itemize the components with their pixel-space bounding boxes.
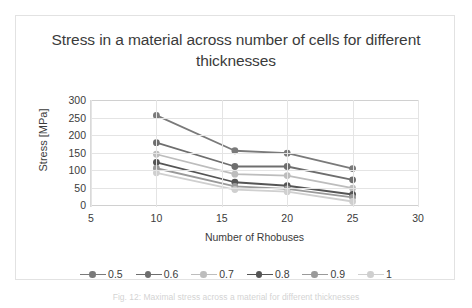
x-axis-tick-label: 30 — [412, 212, 424, 224]
legend-label: 1 — [386, 268, 392, 280]
legend-label: 0.8 — [275, 268, 290, 280]
gridline-vertical — [353, 100, 354, 207]
legend-item[interactable]: 0.5 — [80, 268, 123, 280]
figure-caption: Fig. 12: Maximal stress across a materia… — [0, 292, 472, 302]
chart-title: Stress in a material across number of ce… — [44, 29, 428, 71]
legend-marker-icon — [136, 270, 162, 279]
x-axis-title: Number of Rhobuses — [90, 231, 419, 243]
gridline-horizontal — [91, 135, 418, 136]
legend-item[interactable]: 0.8 — [247, 268, 290, 280]
y-axis-tick-label: 50 — [74, 182, 86, 194]
y-axis-tick-label: 100 — [68, 164, 86, 176]
gridline-vertical — [222, 100, 223, 207]
plot-area — [90, 100, 419, 207]
data-point-marker — [231, 163, 238, 170]
gridline-horizontal — [91, 153, 418, 154]
y-axis-title: Stress [MPa] — [37, 95, 49, 185]
gridline-horizontal — [91, 100, 418, 101]
gridline-vertical — [418, 100, 419, 207]
x-axis-tick-labels: 51015202530 — [90, 212, 419, 228]
gridline-vertical — [91, 100, 92, 207]
gridline-horizontal — [91, 188, 418, 189]
y-axis-tick-label: 200 — [68, 129, 86, 141]
x-axis-tick-label: 10 — [151, 212, 163, 224]
legend-label: 0.6 — [164, 268, 179, 280]
y-axis-tick-labels: 050100150200250300 — [56, 94, 86, 213]
y-axis-tick-label: 0 — [80, 199, 86, 211]
legend-marker-icon — [302, 270, 328, 279]
gridline-horizontal — [91, 118, 418, 119]
x-axis-tick-label: 5 — [88, 212, 94, 224]
data-point-marker — [231, 171, 238, 178]
gridline-vertical — [156, 100, 157, 207]
y-axis-tick-label: 250 — [68, 112, 86, 124]
gridline-vertical — [287, 100, 288, 207]
legend-item[interactable]: 0.6 — [136, 268, 179, 280]
legend-item[interactable]: 1 — [358, 268, 392, 280]
legend-label: 0.9 — [330, 268, 345, 280]
chart-legend: 0.50.60.70.80.91 — [36, 268, 436, 280]
legend-item[interactable]: 0.7 — [191, 268, 234, 280]
y-axis-tick-label: 300 — [68, 94, 86, 106]
legend-label: 0.5 — [108, 268, 123, 280]
chart-frame: Stress in a material across number of ce… — [15, 15, 455, 280]
gridline-horizontal — [91, 205, 418, 206]
legend-marker-icon — [191, 270, 217, 279]
y-axis-tick-label: 150 — [68, 147, 86, 159]
x-axis-tick-label: 25 — [347, 212, 359, 224]
legend-marker-icon — [80, 270, 106, 279]
legend-marker-icon — [247, 270, 273, 279]
series-line — [156, 115, 352, 168]
legend-label: 0.7 — [219, 268, 234, 280]
gridline-horizontal — [91, 170, 418, 171]
legend-item[interactable]: 0.9 — [302, 268, 345, 280]
chart-page: Stress in a material across number of ce… — [0, 0, 472, 308]
x-axis-tick-label: 20 — [281, 212, 293, 224]
legend-marker-icon — [358, 270, 384, 279]
x-axis-tick-label: 15 — [216, 212, 228, 224]
